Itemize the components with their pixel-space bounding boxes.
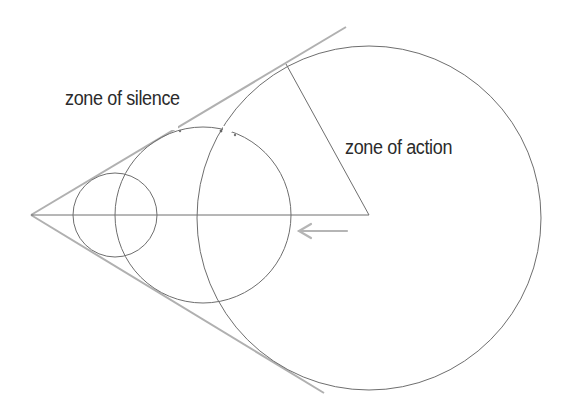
medium-circle-gap-2 xyxy=(223,126,232,132)
medium-circle-gap-1 xyxy=(168,124,178,130)
zone-of-action-label: zone of action xyxy=(345,136,452,159)
direction-arrow xyxy=(299,224,347,238)
gap-dot-3 xyxy=(234,134,236,136)
gap-dot-2 xyxy=(220,130,223,133)
lower-cone-line xyxy=(31,215,324,393)
gap-dot-1 xyxy=(179,130,181,132)
upper-cone-line xyxy=(31,27,346,215)
large-wavefront-circle xyxy=(197,46,541,390)
mach-cone-diagram xyxy=(0,0,564,420)
zone-of-silence-label: zone of silence xyxy=(65,87,180,110)
